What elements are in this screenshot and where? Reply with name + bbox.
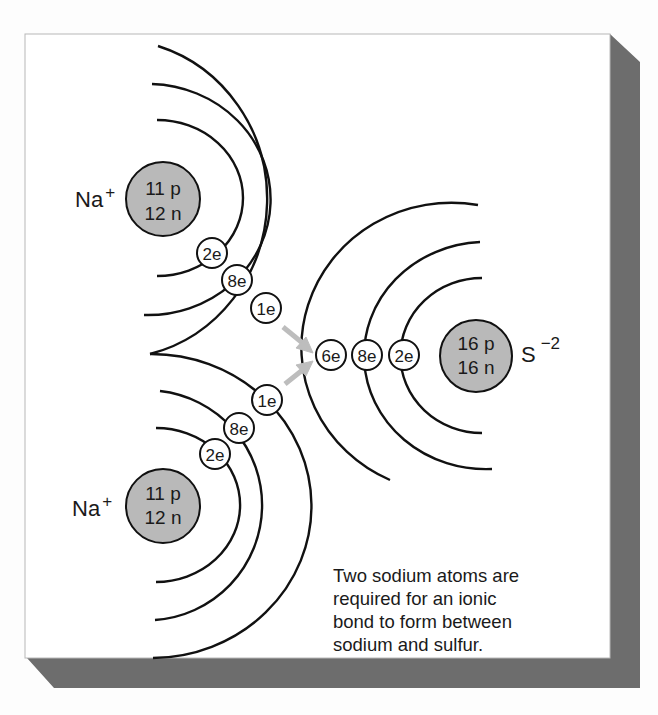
sulfur-neutrons: 16 n	[458, 357, 495, 378]
sulfur-electrons: 6e 8e 2e	[316, 340, 419, 370]
na-top-nucleus: 11 p 12 n	[126, 162, 200, 236]
sulfur-protons: 16 p	[458, 333, 495, 354]
na-top-electron-2e: 2e	[203, 245, 222, 264]
sulfur-electron-6e: 6e	[322, 347, 341, 366]
sulfur-electron-8e: 8e	[358, 347, 377, 366]
na-top-neutrons: 12 n	[145, 203, 182, 224]
sulfur-electron-2e: 2e	[395, 347, 414, 366]
caption-line: Two sodium atoms are	[333, 564, 573, 587]
caption: Two sodium atoms are required for an ion…	[333, 564, 573, 656]
na-top-electron-1e: 1e	[257, 300, 276, 319]
na-bottom-electron-8e: 8e	[230, 420, 249, 439]
na-top-protons: 11 p	[145, 178, 181, 199]
caption-line: sodium and sulfur.	[333, 633, 573, 656]
na-bottom-nucleus: 11 p 12 n	[126, 469, 200, 543]
na-top-electron-8e: 8e	[228, 272, 247, 291]
na-bottom-neutrons: 12 n	[145, 507, 182, 528]
na-bottom-protons: 11 p	[145, 483, 181, 504]
na-bottom-electron-2e: 2e	[206, 446, 225, 465]
caption-line: required for an ionic	[333, 587, 573, 610]
caption-line: bond to form between	[333, 610, 573, 633]
na-bottom-electron-1e: 1e	[258, 392, 277, 411]
sulfur-nucleus: 16 p 16 n	[440, 320, 512, 392]
